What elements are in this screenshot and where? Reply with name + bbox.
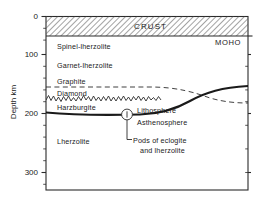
diamond-label: Diamond <box>57 90 87 97</box>
y-tick-label-300: 300 <box>14 169 38 177</box>
asthenosphere-label: Asthenosphere <box>137 119 187 126</box>
geological-cross-section-figure: 0 100 200 300 Depth km CRUST MOHO Spinel… <box>0 0 265 206</box>
y-tick-label-0: 0 <box>14 13 38 21</box>
pods-annotation-line1: Pods of eclogite <box>133 137 187 144</box>
garnet-lherzolite-label: Garnet-lherzolite <box>57 62 113 69</box>
y-axis-title: Depth km <box>10 72 18 132</box>
graphite-label: Graphite <box>57 78 86 85</box>
spinel-lherzolite-label: Spinel-lherzolite <box>57 43 111 50</box>
diagram-canvas <box>0 0 265 206</box>
moho-label: MOHO <box>215 39 241 47</box>
y-tick-label-100: 100 <box>14 51 38 59</box>
crust-label: CRUST <box>134 23 167 31</box>
lherzolite-label: Lherzolite <box>57 138 90 145</box>
lithosphere-label: Lithosphere <box>137 107 176 114</box>
harzburgite-label: Harzburgite <box>57 104 96 111</box>
pods-annotation-line2: and lherzolite <box>140 147 185 154</box>
y-major-ticks-right <box>248 36 253 173</box>
